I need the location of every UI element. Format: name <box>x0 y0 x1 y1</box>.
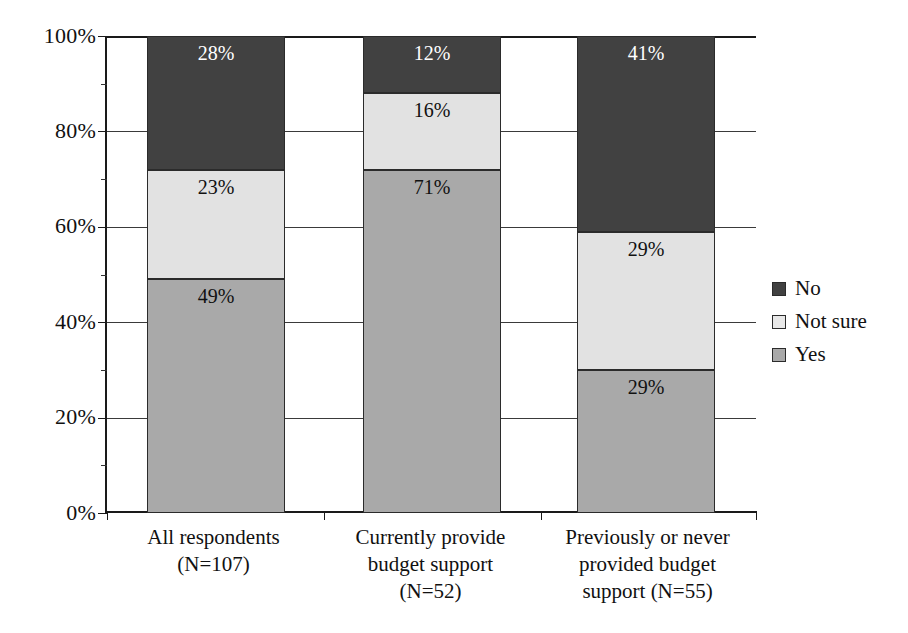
x-category-line: Currently provide <box>322 524 539 551</box>
y-tick-mark-20 <box>98 418 107 419</box>
x-axis-labels: All respondents (N=107) Currently provid… <box>105 524 756 629</box>
y-tick-mark-100 <box>98 36 107 37</box>
bar-group-previously-or-never-provided-budget-support[interactable]: 41% 29% 29% <box>577 36 715 511</box>
plot-area: 28% 23% 49% 12% 16% 71% 41% <box>105 36 756 513</box>
bar-segment-label: 28% <box>198 37 235 63</box>
y-tick-mark-60 <box>98 227 107 228</box>
bar-group-all-respondents[interactable]: 28% 23% 49% <box>147 36 285 511</box>
x-category-line: support (N=55) <box>539 578 756 605</box>
bar-segment-no[interactable]: 41% <box>577 36 715 232</box>
y-tick-mark-0 <box>98 513 107 514</box>
legend-item-label: Yes <box>795 344 826 365</box>
bar-segment-no[interactable]: 12% <box>363 36 501 93</box>
bar-segment-yes[interactable]: 49% <box>147 279 285 513</box>
bar-segment-not-sure[interactable]: 16% <box>363 93 501 169</box>
legend-item-no[interactable]: No <box>772 272 902 305</box>
legend-item-not-sure[interactable]: Not sure <box>772 305 902 338</box>
y-tick-label-100: 100% <box>0 25 96 47</box>
x-category-line: budget support <box>322 551 539 578</box>
x-tick-mark-2 <box>541 511 542 520</box>
legend-item-label: Not sure <box>795 311 867 332</box>
y-tick-mark-80 <box>98 131 107 132</box>
x-category-line: (N=107) <box>105 551 322 578</box>
y-tick-mark-minor-90 <box>101 84 107 85</box>
y-tick-label-80: 80% <box>0 120 96 142</box>
stacked-bar-chart: 100% 80% 60% 40% 20% 0% <box>0 0 908 633</box>
x-category-line: (N=52) <box>322 578 539 605</box>
x-category-label-all-respondents: All respondents (N=107) <box>105 524 322 578</box>
bar-segment-yes[interactable]: 71% <box>363 170 501 513</box>
y-axis-labels: 100% 80% 60% 40% 20% 0% <box>0 0 96 633</box>
legend-swatch-icon <box>772 282 786 296</box>
y-tick-label-0: 0% <box>0 502 96 524</box>
y-tick-mark-minor-70 <box>101 179 107 180</box>
y-tick-mark-40 <box>98 322 107 323</box>
bar-segment-label: 29% <box>628 233 665 259</box>
y-tick-label-20: 20% <box>0 406 96 428</box>
x-tick-mark-0 <box>107 511 108 520</box>
bar-segment-label: 29% <box>628 371 665 397</box>
bar-group-currently-provide-budget-support[interactable]: 12% 16% 71% <box>363 36 501 511</box>
bar-segment-not-sure[interactable]: 23% <box>147 170 285 280</box>
bar-segment-label: 71% <box>414 171 451 197</box>
legend-swatch-icon <box>772 315 786 329</box>
bar-segment-label: 23% <box>198 171 235 197</box>
bar-segment-label: 12% <box>414 37 451 63</box>
x-tick-mark-1 <box>324 511 325 520</box>
bar-segment-not-sure[interactable]: 29% <box>577 232 715 370</box>
y-tick-mark-minor-30 <box>101 370 107 371</box>
legend-swatch-icon <box>772 348 786 362</box>
bar-segment-label: 49% <box>198 280 235 306</box>
chart-legend: No Not sure Yes <box>772 272 902 371</box>
legend-item-label: No <box>795 278 821 299</box>
bar-segment-label: 41% <box>628 37 665 63</box>
y-tick-label-60: 60% <box>0 215 96 237</box>
bar-segment-label: 16% <box>414 94 451 120</box>
y-tick-label-40: 40% <box>0 311 96 333</box>
bar-segment-no[interactable]: 28% <box>147 36 285 170</box>
x-category-label-previously-or-never-provided-budget-support: Previously or never provided budget supp… <box>539 524 756 605</box>
legend-item-yes[interactable]: Yes <box>772 338 902 371</box>
x-category-line: provided budget <box>539 551 756 578</box>
y-tick-mark-minor-50 <box>101 275 107 276</box>
x-tick-mark-3 <box>756 511 757 520</box>
x-category-label-currently-provide-budget-support: Currently provide budget support (N=52) <box>322 524 539 605</box>
x-category-line: Previously or never <box>539 524 756 551</box>
y-tick-mark-minor-10 <box>101 465 107 466</box>
bar-segment-yes[interactable]: 29% <box>577 370 715 513</box>
x-category-line: All respondents <box>105 524 322 551</box>
